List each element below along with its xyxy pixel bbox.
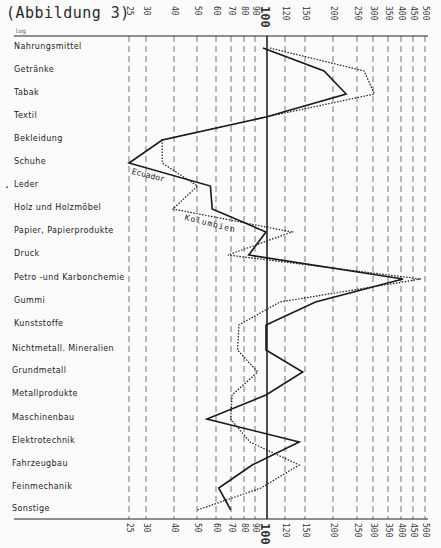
tick-label: 70 bbox=[227, 6, 236, 16]
category-label: Druck bbox=[14, 249, 40, 258]
tick-label: 40 bbox=[170, 6, 179, 16]
category-label: Maschinenbau bbox=[12, 413, 75, 422]
tick-label: 450 bbox=[409, 6, 418, 20]
category-label: Elektrotechnik bbox=[12, 436, 75, 445]
tick-label: 30 bbox=[142, 6, 151, 16]
tick-label: 400 bbox=[397, 523, 406, 537]
tick-label: 400 bbox=[397, 6, 406, 20]
category-label: Nichtmetall. Mineralien bbox=[12, 344, 114, 353]
tick-label: 200 bbox=[329, 6, 338, 20]
tick-label: 300 bbox=[369, 6, 378, 20]
category-label: Holz und Holzmöbel bbox=[14, 203, 101, 212]
category-label: Metallprodukte bbox=[12, 389, 78, 398]
tick-label: 120 bbox=[281, 523, 290, 537]
tick-label: 250 bbox=[353, 523, 362, 537]
category-label: Sonstige bbox=[12, 504, 50, 513]
tick-label: 25 bbox=[125, 6, 134, 16]
series-lines bbox=[129, 48, 421, 510]
tick-label: 60 bbox=[212, 523, 221, 533]
tick-label: 100 bbox=[258, 6, 272, 28]
tick-label: 80 bbox=[240, 523, 249, 533]
tick-label: 120 bbox=[281, 6, 290, 20]
grid-lines bbox=[129, 36, 425, 519]
tick-label: 100 bbox=[258, 523, 272, 545]
tick-label: 30 bbox=[142, 523, 151, 533]
category-label: Schuhe bbox=[14, 157, 46, 166]
tick-label: 250 bbox=[353, 6, 362, 20]
category-label: Papier, Papierprodukte bbox=[14, 226, 114, 235]
category-label: Feinmechanik bbox=[12, 482, 72, 491]
tick-label: 50 bbox=[193, 523, 202, 533]
category-label: Gummi bbox=[14, 296, 45, 305]
category-label: Fahrzeugbau bbox=[12, 459, 68, 468]
category-label: Getränke bbox=[14, 65, 54, 74]
tick-label: 450 bbox=[409, 523, 418, 537]
category-label: Leder bbox=[14, 180, 39, 189]
tick-label: 350 bbox=[384, 6, 393, 20]
tick-label: 500 bbox=[421, 6, 430, 20]
tick-label: 300 bbox=[369, 523, 378, 537]
category-label: Bekleidung bbox=[14, 134, 63, 143]
tick-label: 70 bbox=[227, 523, 236, 533]
category-label: Grundmetall bbox=[12, 366, 66, 375]
category-label: Tabak bbox=[14, 88, 39, 97]
tick-label: 60 bbox=[212, 6, 221, 16]
category-label: Petro -und Karbonchemie bbox=[14, 273, 125, 282]
tick-label: 350 bbox=[384, 523, 393, 537]
category-label: Textil bbox=[14, 111, 37, 120]
tick-label: 500 bbox=[421, 523, 430, 537]
tick-label: 80 bbox=[240, 6, 249, 16]
series-ecuador bbox=[129, 48, 403, 510]
tick-label: 25 bbox=[125, 523, 134, 533]
tick-label: 40 bbox=[170, 523, 179, 533]
category-label: Kunststoffe bbox=[14, 319, 63, 328]
tick-label: 50 bbox=[193, 6, 202, 16]
tick-label: 150 bbox=[301, 523, 310, 537]
tick-label: 150 bbox=[301, 6, 310, 20]
category-label: Nahrungsmittel bbox=[14, 42, 82, 51]
tick-label: 200 bbox=[329, 523, 338, 537]
